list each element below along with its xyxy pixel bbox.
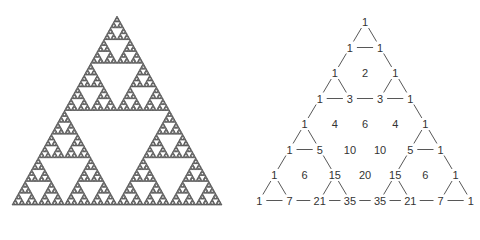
triangle-shape — [196, 161, 199, 164]
triangle-shape — [94, 196, 97, 199]
triangle-shape — [61, 113, 64, 116]
triangle-shape — [194, 158, 197, 161]
triangle-shape — [78, 184, 81, 187]
triangle-shape — [160, 96, 163, 99]
triangle-shape — [65, 113, 68, 116]
triangle-shape — [140, 60, 143, 63]
triangle-shape — [104, 96, 107, 99]
triangle-shape — [186, 149, 189, 152]
connector-line — [459, 181, 467, 194]
triangle-shape — [207, 181, 210, 184]
triangle-shape — [186, 202, 189, 205]
triangle-shape — [110, 37, 113, 40]
triangle-shape — [84, 155, 87, 158]
triangle-shape — [87, 155, 90, 158]
triangle-shape — [147, 102, 150, 105]
triangle-shape — [35, 178, 38, 181]
triangle-shape — [97, 48, 100, 51]
triangle-shape — [138, 164, 141, 167]
triangle-shape — [46, 140, 49, 143]
triangle-shape — [158, 105, 161, 108]
triangle-shape — [83, 170, 86, 173]
pascal-entry: 4 — [392, 118, 398, 130]
triangle-shape — [74, 96, 77, 99]
triangle-shape — [28, 190, 31, 193]
triangle-shape — [135, 75, 138, 78]
triangle-shape — [212, 190, 215, 193]
triangle-shape — [42, 167, 45, 170]
triangle-shape — [153, 108, 156, 111]
triangle-shape — [60, 152, 63, 155]
triangle-shape — [68, 149, 71, 152]
pascal-entry: 21 — [404, 195, 416, 207]
triangle-shape — [92, 164, 95, 167]
triangle-shape — [73, 128, 76, 131]
triangle-shape — [202, 196, 205, 199]
pascal-entry: 5 — [317, 144, 323, 156]
triangle-shape — [42, 202, 45, 205]
triangle-shape — [78, 143, 81, 146]
connector-line — [369, 28, 377, 41]
triangle-shape — [189, 173, 192, 176]
triangle-shape — [206, 184, 209, 187]
triangle-shape — [128, 181, 131, 184]
triangle-shape — [99, 81, 102, 84]
triangle-shape — [176, 125, 179, 128]
triangle-shape — [58, 155, 61, 158]
triangle-shape — [163, 155, 166, 158]
triangle-shape — [68, 196, 71, 199]
connector-line — [338, 79, 346, 92]
triangle-shape — [81, 173, 84, 176]
triangle-shape — [51, 137, 54, 140]
triangle-shape — [22, 190, 25, 193]
pascal-entry: 15 — [389, 169, 401, 181]
triangle-shape — [184, 175, 187, 178]
triangle-shape — [92, 199, 95, 202]
triangle-shape — [163, 102, 166, 105]
triangle-shape — [179, 202, 182, 205]
triangle-shape — [151, 152, 154, 155]
triangle-shape — [161, 146, 164, 149]
triangle-shape — [63, 111, 66, 114]
triangle-shape — [147, 108, 150, 111]
triangle-shape — [32, 173, 35, 176]
connector-line — [429, 130, 437, 143]
triangle-shape — [197, 199, 200, 202]
triangle-shape — [86, 199, 89, 202]
triangle-shape — [189, 155, 192, 158]
triangle-shape — [101, 190, 104, 193]
triangle-shape — [56, 146, 59, 149]
triangle-shape — [110, 196, 113, 199]
triangle-shape — [181, 134, 184, 137]
triangle-shape — [73, 93, 76, 96]
triangle-shape — [102, 181, 105, 184]
triangle-shape — [179, 190, 182, 193]
triangle-shape — [78, 137, 81, 140]
triangle-shape — [166, 119, 169, 122]
triangle-shape — [120, 25, 123, 28]
triangle-shape — [92, 57, 95, 60]
triangle-shape — [128, 40, 131, 43]
triangle-shape — [81, 155, 84, 158]
triangle-shape — [158, 152, 161, 155]
connector-line — [399, 79, 407, 92]
triangle-shape — [27, 187, 30, 190]
triangle-shape — [101, 84, 104, 87]
triangle-shape — [83, 193, 86, 196]
triangle-shape — [127, 96, 130, 99]
triangle-shape — [46, 187, 49, 190]
triangle-shape — [125, 105, 128, 108]
triangle-shape — [104, 190, 107, 193]
triangle-shape — [112, 22, 115, 25]
triangle-shape — [202, 190, 205, 193]
triangle-shape — [27, 199, 30, 202]
triangle-shape — [38, 178, 41, 181]
triangle-shape — [48, 202, 51, 205]
triangle-shape — [130, 178, 133, 181]
triangle-shape — [109, 193, 112, 196]
triangle-shape — [119, 34, 122, 37]
triangle-shape — [110, 54, 113, 57]
triangle-shape — [48, 178, 51, 181]
triangle-shape — [155, 181, 158, 184]
triangle-shape — [137, 60, 140, 63]
